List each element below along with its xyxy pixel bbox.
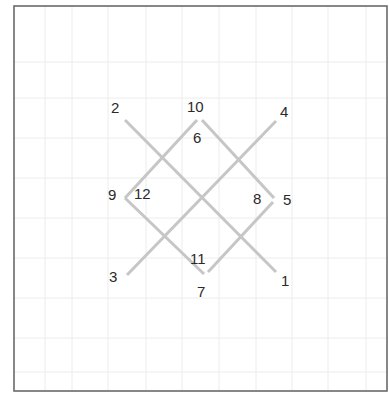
line-puzzle-diagram: 210469128511371 [0, 0, 389, 403]
label-12: 12 [134, 185, 151, 202]
label-7: 7 [197, 283, 205, 300]
label-8: 8 [253, 190, 261, 207]
label-4: 4 [280, 103, 288, 120]
label-2: 2 [111, 99, 119, 116]
label-9: 9 [108, 186, 116, 203]
label-6: 6 [193, 129, 201, 146]
label-5: 5 [283, 191, 291, 208]
label-11: 11 [190, 250, 206, 267]
label-10: 10 [187, 98, 204, 115]
label-3: 3 [109, 268, 117, 285]
label-1: 1 [281, 272, 289, 289]
